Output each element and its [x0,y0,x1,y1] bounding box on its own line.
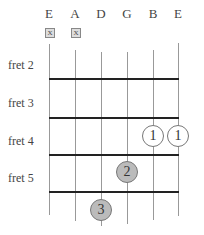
fret-label-3: fret 3 [8,96,34,111]
string-label-d: D [91,6,111,22]
mute-icon-a: X [71,28,81,38]
string-label-low-e: E [39,6,59,22]
fret-label-2: fret 2 [8,58,34,73]
finger-dot-d-fret6: 3 [90,199,112,221]
fret-line-2 [49,78,179,80]
mute-icon-low-e: X [45,28,55,38]
fret-label-5: fret 5 [8,171,34,186]
string-line-a [75,50,76,221]
string-line-low-e [49,44,50,215]
fret-line-4 [49,154,179,156]
fret-label-4: fret 4 [8,134,34,149]
string-label-g: G [117,6,137,22]
finger-dot-b-fret4: 1 [142,125,164,147]
fret-line-5 [49,191,179,193]
finger-dot-high-e-fret4: 1 [167,125,189,147]
string-label-a: A [65,6,85,22]
finger-dot-g-fret5: 2 [116,161,138,183]
string-label-b: B [143,6,163,22]
fret-line-3 [49,117,179,119]
string-label-high-e: E [168,6,188,22]
